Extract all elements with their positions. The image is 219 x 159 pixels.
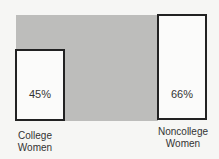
- bar-value-noncollege: 66%: [159, 88, 205, 100]
- bar-noncollege-women: 66%: [157, 14, 207, 120]
- label-line-2: Women: [14, 142, 56, 154]
- label-line-1: Noncollege: [152, 126, 214, 138]
- bar-college-women: 45%: [15, 49, 65, 121]
- label-line-2: Women: [152, 138, 214, 150]
- category-label-noncollege: Noncollege Women: [152, 126, 214, 150]
- category-label-college: College Women: [14, 130, 56, 154]
- bar-value-college: 45%: [17, 88, 63, 100]
- label-line-1: College: [14, 130, 56, 142]
